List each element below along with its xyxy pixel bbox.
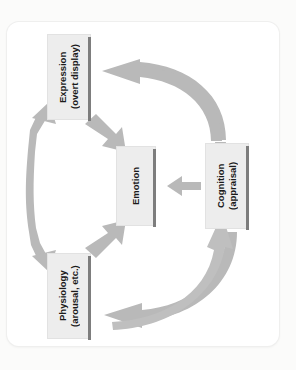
node-expression[interactable]: Expression (overt display) <box>47 34 91 120</box>
node-physiology-label: Physiology (arousal, etc.) <box>48 254 90 338</box>
node-cognition-shadow <box>246 146 249 230</box>
node-emotion[interactable]: Emotion <box>116 146 156 226</box>
node-emotion-shadow <box>153 149 156 227</box>
node-expression-shadow <box>88 37 91 121</box>
node-expression-label: Expression (overt display) <box>48 35 90 119</box>
node-physiology[interactable]: Physiology (arousal, etc.) <box>47 253 91 339</box>
diagram-page: Expression (overt display) Cognition (ap… <box>0 0 296 370</box>
node-cognition-label: Cognition (appraisal) <box>206 144 248 228</box>
node-physiology-shadow <box>88 256 91 340</box>
node-emotion-label: Emotion <box>117 147 155 225</box>
node-cognition[interactable]: Cognition (appraisal) <box>205 143 249 229</box>
